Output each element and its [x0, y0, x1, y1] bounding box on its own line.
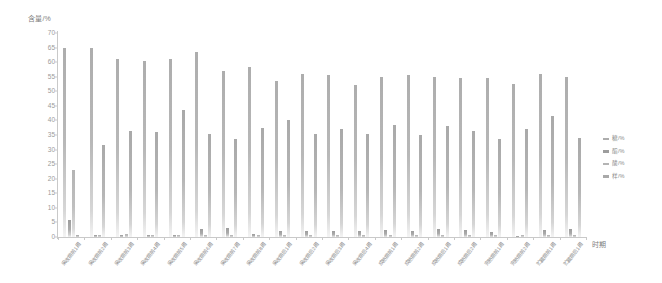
- bar-group: [58, 33, 84, 237]
- x-axis-tick-mark: [296, 237, 297, 240]
- bar-group: [375, 33, 401, 237]
- x-axis-tick-mark: [375, 237, 376, 240]
- x-axis-ticks: 采收期前1周采收期前2周采收期前3周采收期前4周采收期前5周采收期前6周采收期前…: [58, 237, 586, 283]
- bar-group: [84, 33, 110, 237]
- legend-item[interactable]: 糖/%: [603, 136, 625, 142]
- bar-group: [560, 33, 586, 237]
- bar: [340, 129, 343, 237]
- bar: [222, 71, 225, 237]
- x-axis-tick-mark: [111, 237, 112, 240]
- bar: [116, 59, 119, 237]
- x-axis-tick-mark: [216, 237, 217, 240]
- x-axis-tick-mark: [533, 237, 534, 240]
- chart-legend: 糖/%酯/%酸/%样/%: [603, 136, 625, 179]
- bar: [366, 134, 369, 237]
- bar: [68, 220, 71, 237]
- bar: [102, 145, 105, 237]
- x-axis-tick-label: 采收期前8周: [246, 242, 267, 267]
- x-axis-tick-label: 采收期前7周: [219, 242, 240, 267]
- legend-label: 酸/%: [612, 161, 625, 167]
- bar: [129, 131, 132, 237]
- bar: [63, 48, 66, 237]
- bar-chart: 含量/% 时期 0510152025303540455055606570 采收期…: [0, 0, 662, 283]
- bar: [543, 230, 546, 237]
- x-axis-tick-label: 完熟期前2周: [510, 242, 531, 267]
- x-axis-tick-mark: [137, 237, 138, 240]
- legend-label: 样/%: [612, 174, 625, 180]
- x-axis-tick-mark: [586, 237, 587, 240]
- x-axis-tick-label: 采收期后1周: [272, 242, 293, 267]
- bar: [539, 74, 542, 237]
- bar: [407, 75, 410, 237]
- bar: [419, 135, 422, 237]
- bar-group: [533, 33, 559, 237]
- bar: [234, 139, 237, 237]
- x-axis-tick-mark: [428, 237, 429, 240]
- legend-swatch-icon: [603, 175, 609, 178]
- x-axis-title: 时期: [592, 239, 606, 249]
- bar-group: [243, 33, 269, 237]
- bar-group: [507, 33, 533, 237]
- x-axis-tick-label: 成熟期前1周: [378, 242, 399, 267]
- bar: [472, 131, 475, 237]
- x-axis-tick-mark: [84, 237, 85, 240]
- legend-label: 酯/%: [612, 149, 625, 155]
- bar: [327, 75, 330, 237]
- x-axis-tick-label: 成熟期后2周: [457, 242, 478, 267]
- legend-swatch-icon: [603, 150, 609, 153]
- x-axis-tick-mark: [507, 237, 508, 240]
- bar: [578, 138, 581, 237]
- bar: [446, 126, 449, 237]
- bar-group: [454, 33, 480, 237]
- bar: [143, 61, 146, 237]
- bar: [200, 229, 203, 237]
- bar: [512, 84, 515, 237]
- bar: [354, 85, 357, 237]
- bar-group: [269, 33, 295, 237]
- bar: [525, 129, 528, 237]
- bar-group: [111, 33, 137, 237]
- x-axis-tick-mark: [243, 237, 244, 240]
- bar: [90, 48, 93, 237]
- x-axis-tick-mark: [164, 237, 165, 240]
- bar-group: [348, 33, 374, 237]
- bar: [301, 74, 304, 237]
- x-axis-tick-mark: [480, 237, 481, 240]
- bar: [72, 170, 75, 237]
- bar: [486, 78, 489, 237]
- bar: [498, 139, 501, 237]
- legend-item[interactable]: 酯/%: [603, 149, 625, 155]
- x-axis-tick-label: 成熟期前2周: [404, 242, 425, 267]
- x-axis-tick-label: 采收期前3周: [114, 242, 135, 267]
- bar: [169, 59, 172, 237]
- bar-group: [164, 33, 190, 237]
- bar-group: [296, 33, 322, 237]
- bar: [208, 134, 211, 237]
- bar: [565, 77, 568, 237]
- bar: [393, 125, 396, 237]
- x-axis-tick-label: 成熟期后1周: [431, 242, 452, 267]
- bar-group: [137, 33, 163, 237]
- x-axis-tick-label: 采收期后4周: [351, 242, 372, 267]
- bar-group: [428, 33, 454, 237]
- bar: [182, 110, 185, 237]
- bar: [226, 228, 229, 237]
- legend-item[interactable]: 样/%: [603, 174, 625, 180]
- bar: [155, 132, 158, 237]
- legend-swatch-icon: [603, 138, 609, 141]
- bar: [380, 77, 383, 237]
- x-axis-tick-mark: [269, 237, 270, 240]
- bar: [195, 52, 198, 237]
- bar: [275, 81, 278, 237]
- legend-item[interactable]: 酸/%: [603, 161, 625, 167]
- x-axis-tick-label: 采收期前1周: [61, 242, 82, 267]
- x-axis-tick-label: 贮藏期后1周: [563, 242, 584, 267]
- bar: [433, 77, 436, 237]
- x-axis-tick-mark: [58, 237, 59, 240]
- x-axis-tick-label: 采收期后2周: [299, 242, 320, 267]
- legend-swatch-icon: [603, 163, 609, 166]
- bar: [314, 134, 317, 237]
- bar: [551, 116, 554, 237]
- bar-group: [480, 33, 506, 237]
- bar: [437, 229, 440, 237]
